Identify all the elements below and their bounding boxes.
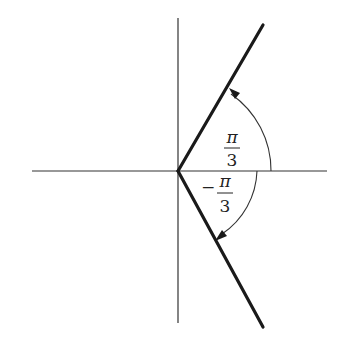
negative-angle-denominator: 3 [220, 196, 231, 216]
lower-ray [178, 171, 263, 327]
positive-angle-denominator: 3 [227, 150, 238, 170]
negative-angle-label: − π 3 [201, 171, 233, 216]
upper-ray [178, 25, 263, 171]
positive-angle-label: π 3 [224, 127, 240, 170]
negative-angle-sign: − [201, 177, 215, 197]
positive-angle-arrowhead-icon [229, 88, 240, 99]
negative-angle-numerator: π [218, 171, 231, 191]
angle-diagram: π 3 − π 3 [0, 0, 350, 342]
positive-angle-numerator: π [225, 127, 238, 147]
